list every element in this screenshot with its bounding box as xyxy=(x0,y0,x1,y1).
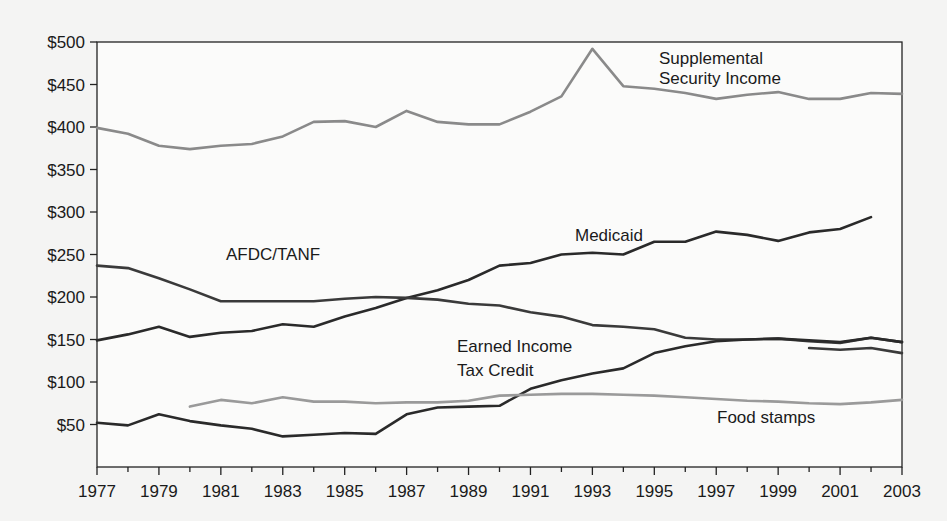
x-tick-label: 1995 xyxy=(635,482,673,501)
annotation-supplemental-security-income: Security Income xyxy=(659,69,781,88)
x-tick-label: 1991 xyxy=(512,482,550,501)
x-tick-label: 1979 xyxy=(140,482,178,501)
y-tick-label: $100 xyxy=(47,373,85,392)
annotation-earned-income-tax-credit: Tax Credit xyxy=(457,361,534,380)
annotation-earned-income-tax-credit: Earned Income xyxy=(457,337,572,356)
x-tick-label: 1983 xyxy=(264,482,302,501)
plot-area: $50$100$150$200$250$300$350$400$450$500 … xyxy=(47,33,921,501)
x-tick-label: 1999 xyxy=(759,482,797,501)
y-tick-label: $200 xyxy=(47,288,85,307)
y-tick-label: $350 xyxy=(47,161,85,180)
plot-frame xyxy=(97,42,902,467)
x-tick-label: 1981 xyxy=(202,482,240,501)
x-tick-label: 1993 xyxy=(573,482,611,501)
x-tick-label: 1997 xyxy=(697,482,735,501)
x-tick-label: 2001 xyxy=(821,482,859,501)
annotation-food-stamps: Food stamps xyxy=(717,408,815,427)
y-tick-label: $150 xyxy=(47,331,85,350)
y-tick-label: $450 xyxy=(47,76,85,95)
y-tick-label: $400 xyxy=(47,118,85,137)
y-tick-label: $300 xyxy=(47,203,85,222)
x-tick-label: 1977 xyxy=(78,482,116,501)
annotation-medicaid: Medicaid xyxy=(575,226,643,245)
x-tick-label: 1989 xyxy=(450,482,488,501)
x-tick-label: 2003 xyxy=(883,482,921,501)
line-chart: $50$100$150$200$250$300$350$400$450$500 … xyxy=(0,0,947,521)
annotation-afdc-tanf: AFDC/TANF xyxy=(226,245,320,264)
x-tick-label: 1987 xyxy=(388,482,426,501)
x-tick-label: 1985 xyxy=(326,482,364,501)
y-tick-label: $50 xyxy=(57,416,85,435)
y-tick-label: $250 xyxy=(47,246,85,265)
y-tick-label: $500 xyxy=(47,33,85,52)
annotation-supplemental-security-income: Supplemental xyxy=(659,49,763,68)
